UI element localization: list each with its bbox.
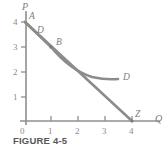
- demand-label-right: D: [123, 73, 130, 83]
- point-label-z: Z: [135, 110, 140, 120]
- point-label-a: A: [29, 12, 35, 22]
- point-marker-z: [130, 119, 133, 122]
- x-tick-label-2: 2: [75, 127, 80, 136]
- y-axis-title: P: [22, 2, 28, 12]
- demand-curve-plot: [0, 0, 168, 151]
- figure-caption: FIGURE 4-5: [13, 136, 67, 146]
- point-label-b: B: [56, 38, 62, 48]
- point-marker-b: [49, 45, 52, 48]
- y-tick-label-1: 1: [13, 93, 18, 102]
- y-tick-label-4: 4: [13, 18, 18, 27]
- figure-container: P Q 4 3 2 1 0 1 2 3 4 A B Z D D FIGURE 4…: [0, 0, 168, 151]
- y-tick-label-3: 3: [13, 43, 18, 52]
- y-tick-label-2: 2: [13, 68, 18, 77]
- demand-label-upper: D: [37, 26, 44, 36]
- x-tick-label-3: 3: [102, 127, 107, 136]
- x-tick-label-4: 4: [129, 127, 134, 136]
- x-axis-title: Q: [155, 114, 162, 124]
